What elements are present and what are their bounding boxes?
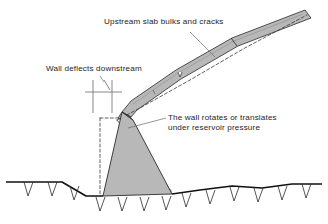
dam-body-triangle (103, 112, 172, 196)
label-wall-rotates-line1: The wall rotates or translates (168, 113, 277, 122)
label-wall-deflects: Wall deflects downstream (46, 64, 142, 74)
label-upstream-slab: Upstream slab bulks and cracks (104, 17, 224, 27)
ground-line-right (172, 184, 322, 194)
label-wall-rotates: The wall rotates or translates under res… (168, 113, 277, 133)
dam-deformation-diagram: Upstream slab bulks and cracks Wall defl… (0, 0, 328, 224)
deflection-dimension-marker (85, 80, 122, 113)
label-wall-rotates-line2: under reservoir pressure (168, 123, 277, 133)
ground-hatch-center (96, 196, 171, 211)
leader-upstream-slab (190, 32, 215, 57)
leader-wall-deflects (100, 76, 104, 82)
dam-fill (103, 112, 172, 196)
ground-hatch-left (24, 182, 79, 200)
diagram-canvas (0, 0, 328, 224)
deflection-diagonal (104, 80, 110, 90)
